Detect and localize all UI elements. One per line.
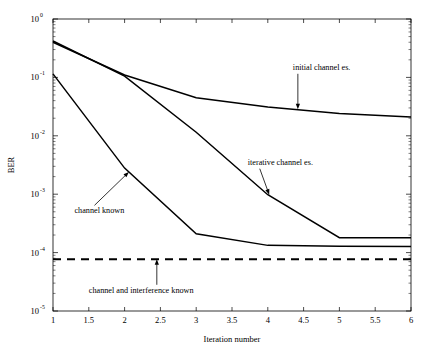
y-tick-label: 100	[31, 12, 44, 24]
annotation-label: channel and interference known	[89, 286, 194, 295]
series-line-initial-channel-es-	[53, 42, 411, 117]
y-tick-mantissa: 10	[31, 14, 40, 24]
x-tick-label: 4.5	[298, 315, 309, 325]
x-tick-label: 6	[409, 315, 413, 325]
y-tick-label: 10-2	[31, 129, 45, 141]
annotation-label: initial channel es.	[293, 63, 351, 72]
y-tick-label: 10-3	[31, 187, 45, 199]
y-tick-mantissa: 10	[31, 72, 40, 82]
y-tick-exponent: -2	[40, 129, 45, 135]
annotation-label: channel known	[74, 206, 124, 215]
series-line-channel-known	[53, 74, 411, 247]
y-tick-exponent: -1	[40, 70, 45, 76]
x-tick-label: 1	[51, 315, 55, 325]
x-tick-label: 2.5	[155, 315, 166, 325]
annotation-leader-line	[260, 169, 268, 190]
y-tick-label: 10-5	[31, 304, 45, 316]
chart-canvas: 11.522.533.544.555.5610010-110-210-310-4…	[0, 0, 431, 357]
annotation-leader-line	[94, 175, 125, 205]
y-tick-mantissa: 10	[31, 131, 40, 141]
plot-frame	[53, 19, 411, 311]
x-tick-label: 2	[122, 315, 126, 325]
y-tick-exponent: 0	[40, 12, 43, 18]
x-tick-label: 5.5	[370, 315, 381, 325]
y-axis-title: BER	[6, 156, 16, 173]
annotation-label: iterative channel es.	[248, 158, 313, 167]
annotation-arrowhead	[296, 104, 300, 110]
x-tick-label: 4	[266, 315, 271, 325]
y-tick-exponent: -3	[40, 187, 45, 193]
y-tick-exponent: -5	[40, 304, 45, 310]
y-tick-label: 10-1	[31, 70, 45, 82]
x-tick-label: 3	[194, 315, 198, 325]
y-tick-mantissa: 10	[31, 189, 40, 199]
y-tick-exponent: -4	[40, 246, 45, 252]
x-tick-label: 5	[337, 315, 341, 325]
ber-vs-iteration-chart: 11.522.533.544.555.5610010-110-210-310-4…	[0, 0, 431, 357]
y-tick-mantissa: 10	[31, 248, 40, 258]
x-axis-title: Iteration number	[204, 334, 261, 344]
x-tick-label: 1.5	[83, 315, 94, 325]
y-tick-mantissa: 10	[31, 306, 40, 316]
y-tick-label: 10-4	[31, 246, 45, 258]
x-tick-label: 3.5	[227, 315, 238, 325]
